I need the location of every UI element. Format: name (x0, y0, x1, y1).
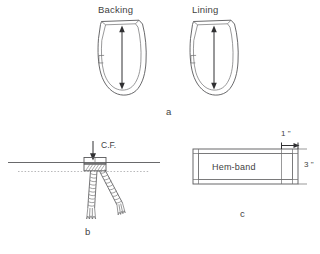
panel-b-letter: b (85, 227, 90, 237)
backing-grain-arrow (119, 26, 125, 90)
backing-piece-title: Backing (98, 5, 133, 15)
lining-piece-title: Lining (192, 5, 219, 15)
hem-band-label: Hem-band (212, 163, 256, 172)
cord-left (87, 171, 97, 219)
panel-a-letter: a (166, 107, 171, 117)
width-dimension-label: 1 " (281, 130, 291, 138)
center-front-cord-detail (0, 127, 168, 237)
width-dimension-arrow (282, 143, 300, 150)
panel-c-letter: c (240, 209, 245, 219)
backing-pattern-piece (92, 18, 168, 98)
panel-b: C.F. (0, 127, 168, 254)
lining-grain-arrow (211, 26, 217, 90)
technical-illustration-figure: Backing Lining (0, 0, 320, 254)
height-dimension-label: 3 " (304, 161, 314, 169)
panel-c: Hem-band 1 " 3 " c (168, 127, 320, 254)
panel-a: Backing Lining (0, 0, 320, 127)
lining-pattern-piece (184, 18, 260, 98)
cord-right (100, 170, 126, 215)
